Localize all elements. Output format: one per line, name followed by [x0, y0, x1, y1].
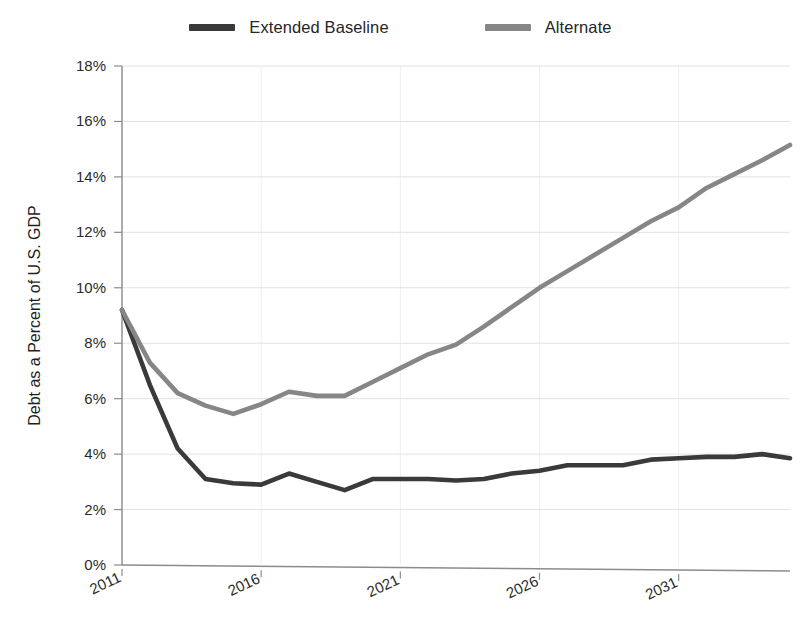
vertical-gridlines: [122, 66, 679, 565]
y-tick-label: 18%: [76, 57, 106, 74]
y-axis-title-group: Debt as a Percent of U.S. GDP: [26, 205, 43, 426]
y-tick-label: 2%: [84, 501, 106, 518]
y-tick-label: 8%: [84, 334, 106, 351]
series-line-extended-baseline: [122, 310, 790, 490]
x-tick-label: 2026: [503, 572, 540, 602]
axis-lines: [122, 66, 790, 571]
y-tick-label: 6%: [84, 390, 106, 407]
x-axis-line: [122, 565, 790, 571]
horizontal-gridlines: [122, 66, 790, 510]
x-tick-label: 2021: [364, 571, 401, 601]
data-series-group: [122, 145, 790, 490]
plot-area: 0%2%4%6%8%10%12%14%16%18% 20112016202120…: [0, 0, 801, 636]
y-tick-label: 10%: [76, 279, 106, 296]
y-axis-title: Debt as a Percent of U.S. GDP: [26, 205, 43, 426]
plot-svg: 0%2%4%6%8%10%12%14%16%18% 20112016202120…: [0, 0, 801, 636]
y-tick-label: 4%: [84, 445, 106, 462]
series-line-alternate: [122, 145, 790, 414]
line-chart: Extended Baseline Alternate 0%2%4%6%8%10…: [0, 0, 801, 636]
x-tick-label: 2031: [643, 573, 680, 603]
y-tick-label: 12%: [76, 223, 106, 240]
y-tick-label: 16%: [76, 112, 106, 129]
x-tick-label: 2016: [225, 570, 262, 600]
y-tick-label: 14%: [76, 168, 106, 185]
x-axis-ticks: 20112016202120262031: [87, 568, 680, 603]
y-axis-ticks: 0%2%4%6%8%10%12%14%16%18%: [76, 57, 122, 573]
y-tick-label: 0%: [84, 556, 106, 573]
